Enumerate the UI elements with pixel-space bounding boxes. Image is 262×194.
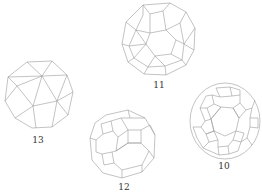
polyhedron-12 [90,110,155,178]
polyhedron-10 [190,83,260,159]
label-13: 13 [32,136,43,145]
polyhedron-11 [122,3,195,75]
label-12: 12 [118,183,129,192]
polyhedron-13 [5,61,73,128]
label-10: 10 [218,162,229,171]
label-11: 11 [153,81,164,90]
